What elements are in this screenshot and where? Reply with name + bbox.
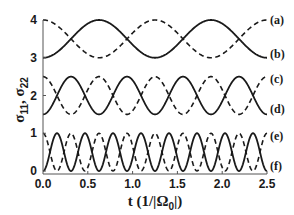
y-tick-label: 0 — [30, 164, 37, 178]
svg-text:σ11, σ22: σ11, σ22 — [11, 77, 30, 123]
x-tick-label: 1.0 — [124, 177, 141, 191]
series-label-a: (a) — [270, 13, 284, 27]
y-title-sub22: 22 — [19, 77, 30, 89]
x-axis-title: t (1/|Ω0|) — [128, 193, 183, 212]
y-tick-label: 1 — [30, 126, 37, 140]
y-tick-label: 3 — [30, 51, 37, 65]
plot-lines — [43, 20, 267, 171]
series-labels: (a)(b)(c)(d)(e)(f) — [270, 13, 285, 173]
series-label-e: (e) — [270, 129, 283, 143]
series-line-a — [43, 20, 267, 58]
x-title-main: t (1/|Ω — [128, 193, 169, 210]
y-title-sub11: 11 — [19, 104, 30, 115]
series-line-f — [43, 133, 267, 171]
y-tick-label: 4 — [30, 13, 37, 27]
x-tick-label: 2.5 — [259, 177, 276, 191]
series-label-d: (d) — [270, 102, 285, 116]
series-label-b: (b) — [270, 47, 285, 61]
x-tick-label: 1.5 — [169, 177, 186, 191]
y-tick-label: 2 — [30, 89, 37, 103]
series-line-e — [43, 133, 267, 171]
series-line-d — [43, 77, 267, 115]
x-tick-label: 0.0 — [35, 177, 52, 191]
x-tick-label: 2.0 — [214, 177, 231, 191]
series-label-c: (c) — [270, 72, 283, 86]
x-title-end: |) — [174, 193, 182, 210]
series-label-f: (f) — [270, 159, 282, 173]
y-title-comma: , — [11, 97, 27, 105]
series-line-c — [43, 77, 267, 115]
y-axis-title: σ11, σ22 — [11, 77, 30, 123]
x-tick-label: 0.5 — [79, 177, 96, 191]
series-line-b — [43, 20, 267, 58]
chart-canvas: 012340.00.51.01.52.02.5 (a)(b)(c)(d)(e)(… — [0, 0, 294, 215]
